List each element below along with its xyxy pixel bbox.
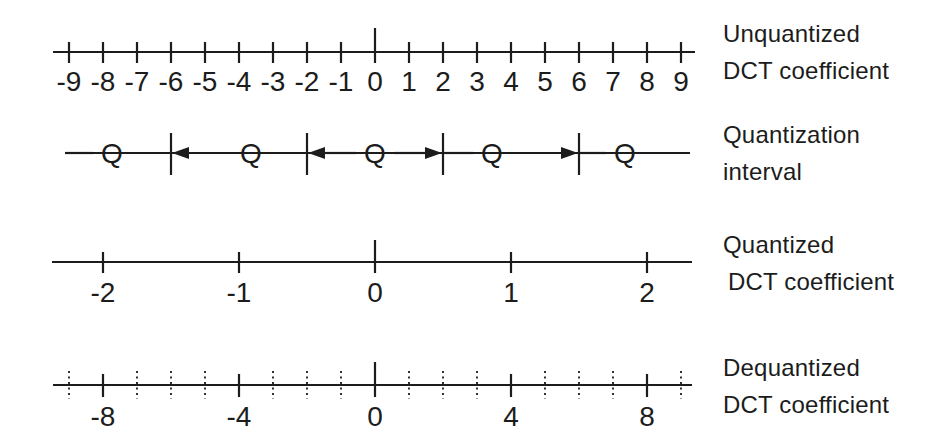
q-label: Q [240, 138, 262, 169]
tick-label: -4 [227, 401, 252, 432]
q-label: Q [101, 138, 123, 169]
tick-label: -1 [227, 277, 252, 308]
row-quantized: -2-1012 [52, 240, 692, 308]
tick-label: 6 [571, 66, 587, 97]
tick-label: 4 [503, 401, 519, 432]
row-label-dequantized: Dequantized DCT coefficient [723, 349, 928, 423]
quantization-figure: -9-8-7-6-5-4-3-2-10123456789QQQQQ-2-1012… [0, 0, 933, 448]
row-unquantized: -9-8-7-6-5-4-3-2-10123456789 [53, 28, 695, 97]
arrowhead-right [425, 147, 442, 159]
tick-label: -8 [91, 401, 116, 432]
row-label-line-1: Quantization [723, 116, 928, 153]
tick-label: 9 [673, 66, 689, 97]
tick-label: 0 [367, 66, 383, 97]
q-label: Q [364, 138, 386, 169]
row-label-line-1: Quantized [723, 226, 928, 263]
tick-label: 5 [537, 66, 553, 97]
arrowhead-right [561, 147, 578, 159]
row-quantization-interval: QQQQQ [65, 133, 690, 175]
row-label-line-2: DCT coefficient [723, 386, 928, 423]
tick-label: -5 [193, 66, 218, 97]
tick-label: 8 [639, 66, 655, 97]
tick-label: 3 [469, 66, 485, 97]
row-label-line-2: interval [723, 153, 928, 190]
q-label: Q [614, 138, 636, 169]
tick-label: -2 [91, 277, 116, 308]
tick-label: -1 [329, 66, 354, 97]
row-label-line-1: Unquantized [723, 15, 928, 52]
tick-label: 4 [503, 66, 519, 97]
tick-label: 1 [503, 277, 519, 308]
row-label-unquantized: Unquantized DCT coefficient [723, 15, 928, 89]
tick-label: 8 [639, 401, 655, 432]
tick-label: 2 [639, 277, 655, 308]
tick-label: -4 [227, 66, 252, 97]
tick-label: 0 [367, 277, 383, 308]
row-label-quantized: Quantized DCT coefficient [723, 226, 928, 300]
row-label-line-1: Dequantized [723, 349, 928, 386]
tick-label: 0 [367, 401, 383, 432]
arrowhead-left [172, 147, 189, 159]
tick-label: -6 [159, 66, 184, 97]
tick-label: -8 [91, 66, 116, 97]
tick-label: 1 [401, 66, 417, 97]
tick-label: 7 [605, 66, 621, 97]
arrowhead-left [308, 147, 325, 159]
q-label: Q [481, 138, 503, 169]
row-label-quantization-interval: Quantization interval [723, 116, 928, 190]
tick-label: -2 [295, 66, 320, 97]
tick-label: 2 [435, 66, 451, 97]
row-label-line-2: DCT coefficient [723, 263, 928, 300]
row-label-line-2: DCT coefficient [723, 52, 928, 89]
tick-label: -9 [57, 66, 82, 97]
tick-label: -7 [125, 66, 150, 97]
tick-label: -3 [261, 66, 286, 97]
row-dequantized: -8-4048 [53, 362, 692, 432]
